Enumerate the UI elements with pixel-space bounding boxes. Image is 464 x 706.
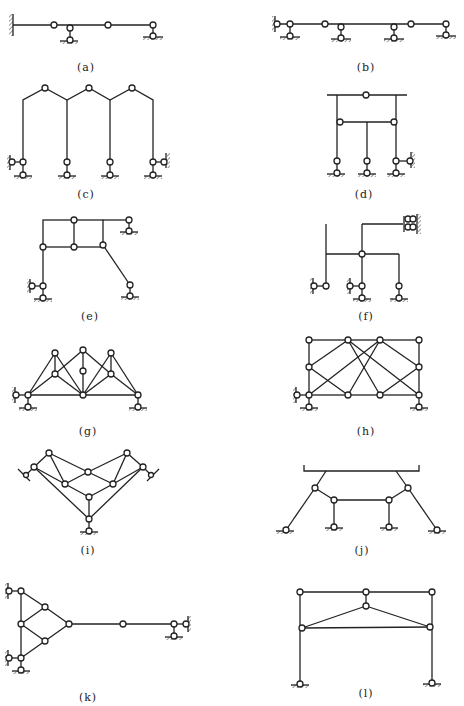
caption-k: (k)	[79, 691, 97, 704]
panel-c	[7, 85, 170, 179]
panel-f	[310, 214, 421, 302]
panel-h	[293, 337, 428, 411]
caption-j: (j)	[355, 544, 370, 557]
panel-b	[272, 16, 456, 42]
panel-i	[18, 450, 159, 535]
panel-e	[27, 217, 139, 302]
panel-k	[5, 583, 191, 674]
caption-b: (b)	[357, 61, 376, 74]
panel-g	[12, 347, 147, 411]
structural-diagram-canvas	[0, 0, 464, 706]
caption-d: (d)	[355, 188, 374, 201]
panel-l	[291, 589, 441, 688]
caption-g: (g)	[79, 425, 98, 438]
caption-f: (f)	[358, 310, 374, 323]
caption-e: (e)	[81, 310, 99, 323]
caption-c: (c)	[77, 188, 95, 201]
panel-j	[276, 465, 446, 534]
panel-d	[327, 92, 415, 177]
caption-h: (h)	[357, 425, 376, 438]
panel-a	[9, 14, 163, 44]
caption-a: (a)	[77, 61, 95, 74]
caption-i: (i)	[80, 544, 95, 557]
caption-l: (l)	[358, 687, 373, 700]
